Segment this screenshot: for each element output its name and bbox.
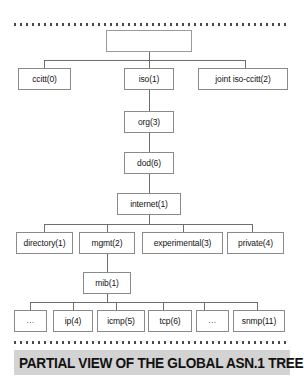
tree-node-private[interactable]: private(4): [227, 232, 284, 254]
tree-node-experimental[interactable]: experimental(3): [142, 232, 223, 254]
tree-node-label: tcp(6): [159, 317, 180, 326]
tree-node-label: ip(4): [65, 317, 82, 326]
tree-node-tcp[interactable]: tcp(6): [148, 310, 192, 332]
tree-node-label: snmp(11): [242, 317, 276, 326]
tree-node-label: iso(1): [139, 75, 160, 84]
tree-node-label: mib(1): [95, 279, 119, 288]
tree-node-icmp[interactable]: icmp(5): [97, 310, 145, 332]
tree-node-label: org(3): [138, 118, 160, 127]
tree-node-org[interactable]: org(3): [124, 111, 174, 133]
tree-node-directory[interactable]: directory(1): [16, 232, 73, 254]
tree-node-label: joint iso-ccitt(2): [215, 75, 270, 84]
tree-node-ellipsis-left[interactable]: ...: [14, 310, 47, 332]
dotted-rule-bottom-icon: [12, 341, 290, 344]
tree-node-label: mgmt(2): [92, 239, 123, 248]
tree-node-iso[interactable]: iso(1): [124, 68, 174, 90]
asn1-tree-figure: ccitt(0) iso(1) joint iso-ccitt(2) org(3…: [0, 0, 304, 387]
figure-caption: PARTIAL VIEW OF THE GLOBAL ASN.1 TREE: [19, 352, 275, 373]
tree-node-label: dod(6): [137, 159, 161, 168]
tree-node-mib[interactable]: mib(1): [83, 272, 131, 294]
tree-node-dod[interactable]: dod(6): [124, 152, 174, 174]
tree-node-snmp[interactable]: snmp(11): [233, 310, 285, 332]
dotted-rule-top-icon: [12, 23, 290, 26]
tree-node-label: internet(1): [130, 200, 168, 209]
tree-node-label: experimental(3): [154, 239, 212, 248]
tree-node-mgmt[interactable]: mgmt(2): [79, 232, 135, 254]
tree-node-joint-iso-ccitt[interactable]: joint iso-ccitt(2): [198, 68, 288, 90]
tree-node-ip[interactable]: ip(4): [53, 310, 93, 332]
tree-node-label: ccitt(0): [32, 75, 57, 84]
tree-node-internet[interactable]: internet(1): [117, 193, 181, 215]
tree-node-ellipsis-right[interactable]: ...: [196, 310, 229, 332]
tree-node-label: ...: [208, 317, 216, 325]
tree-node-label: private(4): [238, 239, 273, 248]
tree-node-label: icmp(5): [107, 317, 135, 326]
tree-node-ccitt[interactable]: ccitt(0): [18, 68, 71, 90]
tree-node-root[interactable]: [106, 30, 192, 52]
tree-node-label: directory(1): [24, 239, 66, 248]
tree-node-label: ...: [26, 317, 34, 325]
